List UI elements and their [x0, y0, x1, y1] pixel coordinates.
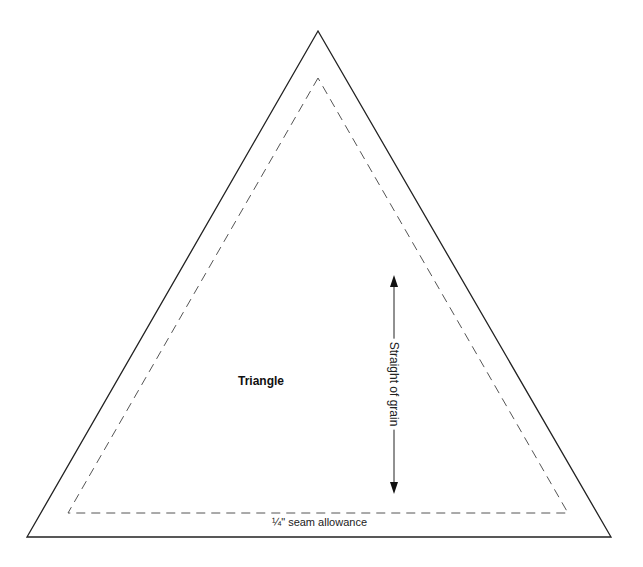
triangle-template-diagram: Triangle Straight of grain ¼" seam allow… — [0, 0, 643, 567]
grain-label: Straight of grain — [387, 339, 401, 430]
shape-label: Triangle — [238, 374, 284, 388]
seam-allowance-label: ¼" seam allowance — [272, 516, 367, 528]
triangle-drawing — [0, 0, 643, 567]
seam-line-inner-triangle — [68, 78, 568, 513]
cutting-line-outer-triangle — [27, 31, 611, 537]
arrow-up-icon — [390, 275, 398, 287]
arrow-down-icon — [390, 482, 398, 494]
